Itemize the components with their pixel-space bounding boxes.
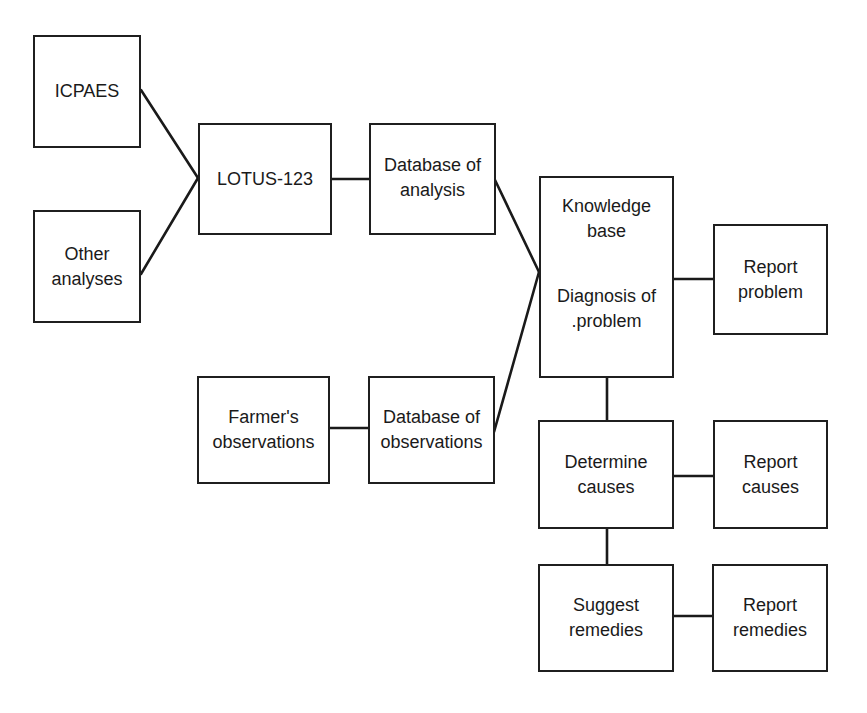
node-label: observations [380,430,482,455]
node-label: Report [743,450,797,475]
node-label: .problem [571,309,641,334]
node-suggest-remedies: Suggest remedies [538,564,674,672]
node-label: ICPAES [55,79,120,104]
node-label: problem [738,280,803,305]
node-report-causes: Report causes [713,420,828,529]
node-report-remedies: Report remedies [712,564,828,672]
diagram-canvas: ICPAES Other analyses LOTUS-123 Database… [0,0,867,713]
node-label: causes [577,475,634,500]
node-label: Diagnosis of [557,284,656,309]
node-label: Report [743,255,797,280]
node-label: remedies [569,618,643,643]
node-farmers-observations: Farmer's observations [197,376,330,484]
node-label: Determine [564,450,647,475]
node-label: base [587,219,626,244]
node-label: Report [743,593,797,618]
node-label: Suggest [573,593,639,618]
node-label: Farmer's [228,405,298,430]
node-label: Database of [383,405,480,430]
node-lotus-123: LOTUS-123 [198,123,332,235]
node-knowledge-base: Knowledge base Diagnosis of .problem [539,176,674,378]
node-label: analyses [51,267,122,292]
edge-other-analyses-to-lotus [141,178,198,274]
node-label: causes [742,475,799,500]
node-determine-causes: Determine causes [538,420,674,529]
edge-db-observations-to-knowledge-base [494,272,539,432]
node-label: Knowledge [562,194,651,219]
node-label: Database of [384,153,481,178]
edge-icpaes-to-lotus [141,90,198,178]
node-report-problem: Report problem [713,224,828,335]
node-database-of-analysis: Database of analysis [369,123,496,235]
node-icpaes: ICPAES [33,35,141,148]
node-label: LOTUS-123 [217,167,313,192]
node-label: observations [212,430,314,455]
node-other-analyses: Other analyses [33,210,141,323]
node-label: analysis [400,178,465,203]
node-database-of-observations: Database of observations [368,376,495,484]
edge-db-analysis-to-knowledge-base [495,180,539,272]
node-label: remedies [733,618,807,643]
node-label: Other [64,242,109,267]
